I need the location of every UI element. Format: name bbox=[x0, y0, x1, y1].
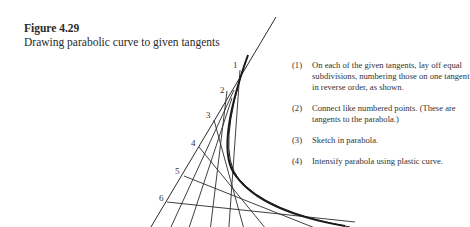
step-number: (4) bbox=[292, 156, 312, 167]
point-label-6: 6 bbox=[159, 193, 164, 203]
point-label-1: 1 bbox=[233, 60, 238, 70]
step-text: On each of the given tangents, lay off e… bbox=[312, 60, 470, 93]
point-label-4: 4 bbox=[191, 138, 196, 148]
step-text: Connect like numbered points. (These are… bbox=[312, 103, 470, 125]
step-1: (1) On each of the given tangents, lay o… bbox=[292, 60, 470, 93]
step-number: (1) bbox=[292, 60, 312, 93]
point-label-5: 5 bbox=[175, 166, 180, 176]
step-4: (4) Intensify parabola using plastic cur… bbox=[292, 156, 470, 167]
step-text: Intensify parabola using plastic curve. bbox=[312, 156, 470, 167]
point-label-3: 3 bbox=[206, 110, 211, 120]
point-label-2: 2 bbox=[220, 85, 225, 95]
step-number: (3) bbox=[292, 135, 312, 146]
step-text: Sketch in parabola. bbox=[312, 135, 470, 146]
step-2: (2) Connect like numbered points. (These… bbox=[292, 103, 470, 125]
instruction-steps: (1) On each of the given tangents, lay o… bbox=[292, 60, 470, 177]
step-3: (3) Sketch in parabola. bbox=[292, 135, 470, 146]
step-number: (2) bbox=[292, 103, 312, 125]
